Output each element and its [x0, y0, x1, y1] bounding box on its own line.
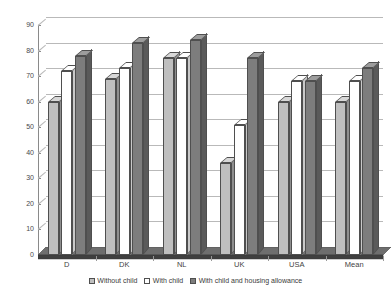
bar-front-face — [75, 56, 86, 255]
bar-front-face — [335, 102, 346, 255]
legend-label: With child — [153, 277, 183, 285]
bar-series-layer — [0, 0, 391, 301]
bar — [163, 58, 174, 255]
legend-item: With child — [144, 277, 183, 285]
bar-chart: 0102030405060708090 DDKNLUKUSAMean Witho… — [0, 0, 391, 301]
legend-swatch-icon — [190, 278, 196, 284]
bar-side-face — [373, 61, 379, 255]
x-axis-category-label: DK — [96, 260, 154, 269]
bar-front-face — [119, 68, 130, 255]
x-axis-category-label: NL — [153, 260, 211, 269]
bar — [119, 68, 130, 255]
bar — [48, 102, 59, 255]
bar-front-face — [105, 79, 116, 255]
bar-front-face — [220, 163, 231, 255]
bar — [176, 58, 187, 255]
bar — [75, 56, 86, 255]
x-axis-separator — [383, 256, 384, 261]
x-axis-category-label: UK — [211, 260, 269, 269]
chart-legend: Without childWith childWith child and ho… — [0, 277, 391, 285]
bar — [335, 102, 346, 255]
bar — [247, 58, 258, 255]
bar — [349, 81, 360, 255]
x-axis-category-label: Mean — [326, 260, 384, 269]
bar — [291, 81, 302, 255]
bar-front-face — [291, 81, 302, 255]
bar — [220, 163, 231, 255]
legend-swatch-icon — [144, 278, 150, 284]
bar — [234, 125, 245, 255]
legend-item: With child and housing allowance — [190, 277, 302, 285]
bar-front-face — [163, 58, 174, 255]
bar-side-face — [86, 49, 92, 255]
x-axis-category-label: USA — [268, 260, 326, 269]
bar-side-face — [143, 36, 149, 255]
bar-side-face — [316, 74, 322, 255]
bar-front-face — [190, 40, 201, 255]
bar-front-face — [305, 81, 316, 255]
bar — [105, 79, 116, 255]
bar — [305, 81, 316, 255]
bar-front-face — [48, 102, 59, 255]
legend-swatch-icon — [89, 278, 95, 284]
bar — [190, 40, 201, 255]
bar-front-face — [132, 43, 143, 255]
x-axis-category-label: D — [38, 260, 96, 269]
bar-front-face — [234, 125, 245, 255]
bar-front-face — [349, 81, 360, 255]
bar-front-face — [61, 71, 72, 255]
legend-item: Without child — [89, 277, 138, 285]
bar-front-face — [362, 68, 373, 255]
bar-front-face — [176, 58, 187, 255]
bar — [61, 71, 72, 255]
bar — [362, 68, 373, 255]
bar-front-face — [278, 102, 289, 255]
bar-side-face — [258, 51, 264, 255]
bar — [132, 43, 143, 255]
bar-side-face — [201, 33, 207, 255]
legend-label: With child and housing allowance — [199, 277, 303, 285]
legend-label: Without child — [97, 277, 137, 285]
bar — [278, 102, 289, 255]
bar-front-face — [247, 58, 258, 255]
